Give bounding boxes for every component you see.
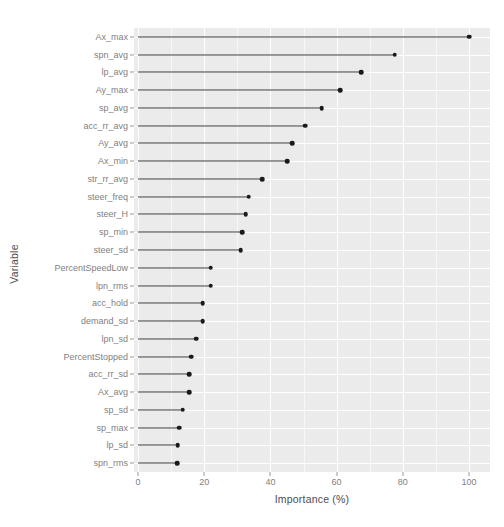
lollipop-point bbox=[338, 88, 343, 93]
lollipop-point bbox=[243, 212, 248, 217]
x-axis: 020406080100 bbox=[134, 472, 490, 494]
lollipop-stem bbox=[138, 392, 189, 393]
y-axis-tick-label: sp_max bbox=[96, 423, 128, 432]
lollipop-stem bbox=[138, 107, 322, 108]
lollipop-point bbox=[392, 52, 397, 57]
lollipop-point bbox=[319, 106, 324, 111]
y-axis-tick-label: lpn_rms bbox=[96, 281, 128, 290]
lollipop-point bbox=[467, 35, 472, 40]
y-axis-tick-label: Ax_avg bbox=[98, 388, 128, 397]
y-axis-tick-label: steer_freq bbox=[87, 192, 128, 201]
y-axis-tick-label: acc_hold bbox=[92, 299, 128, 308]
x-axis-tick-label: 40 bbox=[265, 478, 275, 487]
lollipop-stem bbox=[138, 303, 203, 304]
y-axis-tick-label: sp_min bbox=[99, 228, 128, 237]
lollipop-stem bbox=[138, 178, 262, 179]
x-axis-tick-label: 100 bbox=[461, 478, 476, 487]
lollipop-stem bbox=[138, 409, 183, 410]
lollipop-stem bbox=[138, 143, 292, 144]
importance-lollipop-chart: Variable Ax_maxspn_avglp_avgAy_maxsp_avg… bbox=[0, 0, 504, 527]
lollipop-stem bbox=[138, 196, 249, 197]
lollipop-point bbox=[290, 141, 295, 146]
lollipop-point bbox=[189, 354, 194, 359]
lollipop-stem bbox=[138, 214, 246, 215]
lollipop-point bbox=[209, 283, 214, 288]
lollipop-stem bbox=[138, 72, 361, 73]
x-axis-title: Importance (%) bbox=[134, 493, 490, 505]
gridline-horizontal bbox=[134, 463, 490, 464]
y-axis-tick-label: spn_avg bbox=[94, 50, 128, 59]
lollipop-stem bbox=[138, 125, 305, 126]
x-axis-tick-label: 0 bbox=[135, 478, 140, 487]
lollipop-point bbox=[240, 230, 245, 235]
lollipop-point bbox=[247, 194, 252, 199]
y-axis-tick-label: Ay_avg bbox=[98, 139, 128, 148]
lollipop-stem bbox=[138, 338, 196, 339]
lollipop-stem bbox=[138, 232, 242, 233]
lollipop-stem bbox=[138, 463, 177, 464]
plot-panel bbox=[134, 28, 490, 472]
lollipop-point bbox=[285, 159, 290, 164]
lollipop-point bbox=[209, 265, 214, 270]
lollipop-stem bbox=[138, 54, 395, 55]
lollipop-stem bbox=[138, 374, 189, 375]
lollipop-stem bbox=[138, 427, 179, 428]
lollipop-stem bbox=[138, 285, 211, 286]
lollipop-point bbox=[200, 301, 205, 306]
x-axis-tick-mark bbox=[270, 472, 271, 476]
x-axis-tick-mark bbox=[402, 472, 403, 476]
lollipop-point bbox=[359, 70, 364, 75]
y-axis-tick-label: steer_H bbox=[96, 210, 128, 219]
y-axis-tick-label: demand_sd bbox=[81, 317, 128, 326]
lollipop-stem bbox=[138, 445, 178, 446]
x-axis-tick-label: 80 bbox=[398, 478, 408, 487]
lollipop-point bbox=[187, 390, 192, 395]
y-axis-tick-label: acc_rr_avg bbox=[83, 121, 128, 130]
lollipop-stem bbox=[138, 36, 469, 37]
y-axis-tick-label: acc_rr_sd bbox=[88, 370, 128, 379]
y-axis-tick-label: PercentSpeedLow bbox=[54, 263, 128, 272]
lollipop-point bbox=[238, 248, 243, 253]
x-axis-tick-label: 20 bbox=[199, 478, 209, 487]
x-axis-tick-mark bbox=[138, 472, 139, 476]
y-axis-title-label: Variable bbox=[8, 244, 20, 283]
lollipop-stem bbox=[138, 267, 211, 268]
lollipop-point bbox=[175, 461, 180, 466]
y-axis-title: Variable bbox=[0, 0, 28, 527]
lollipop-stem bbox=[138, 356, 191, 357]
lollipop-point bbox=[175, 443, 180, 448]
y-axis-tick-label: Ax_min bbox=[98, 157, 128, 166]
y-axis-tick-label: PercentStopped bbox=[63, 352, 128, 361]
lollipop-point bbox=[187, 372, 192, 377]
lollipop-point bbox=[260, 177, 265, 182]
gridline-horizontal bbox=[134, 428, 490, 429]
lollipop-stem bbox=[138, 250, 241, 251]
y-axis-tick-label: sp_avg bbox=[99, 103, 128, 112]
y-axis-tick-label: str_rr_avg bbox=[87, 174, 128, 183]
lollipop-point bbox=[194, 337, 199, 342]
y-axis-tick-label: Ay_max bbox=[96, 86, 128, 95]
lollipop-point bbox=[180, 408, 185, 413]
x-axis-tick-mark bbox=[469, 472, 470, 476]
y-axis-tick-label: lp_avg bbox=[101, 68, 128, 77]
lollipop-point bbox=[200, 319, 205, 324]
y-axis-tick-label: spn_rms bbox=[93, 459, 128, 468]
x-axis-tick-label: 60 bbox=[332, 478, 342, 487]
y-axis-tick-label: Ax_max bbox=[95, 32, 128, 41]
lollipop-stem bbox=[138, 321, 203, 322]
y-axis-tick-label: lpn_sd bbox=[101, 334, 128, 343]
y-axis-tick-label: sp_sd bbox=[104, 405, 128, 414]
y-axis-tick-label: lp_sd bbox=[106, 441, 128, 450]
lollipop-point bbox=[303, 123, 308, 128]
lollipop-stem bbox=[138, 90, 340, 91]
y-axis-tick-labels: Ax_maxspn_avglp_avgAy_maxsp_avgacc_rr_av… bbox=[26, 28, 134, 472]
lollipop-point bbox=[177, 425, 182, 430]
x-axis-tick-mark bbox=[204, 472, 205, 476]
y-axis-tick-label: steer_sd bbox=[93, 246, 128, 255]
x-axis-tick-mark bbox=[336, 472, 337, 476]
gridline-horizontal bbox=[134, 410, 490, 411]
gridline-horizontal bbox=[134, 445, 490, 446]
lollipop-stem bbox=[138, 161, 287, 162]
